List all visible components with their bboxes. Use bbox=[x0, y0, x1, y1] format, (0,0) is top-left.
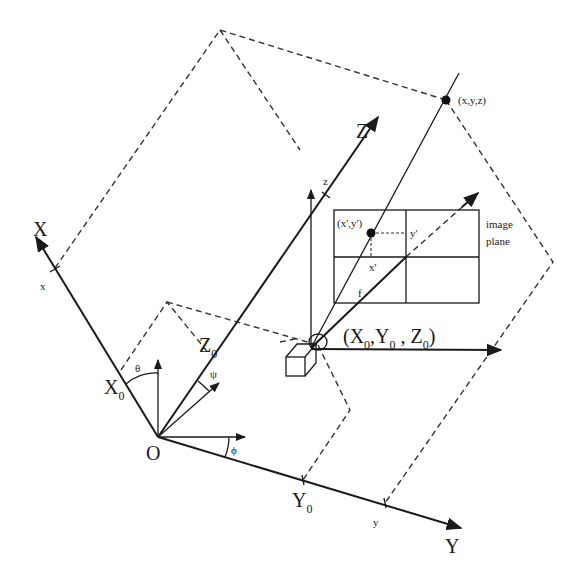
label-focal-length: f bbox=[358, 287, 362, 299]
label-image-y: y' bbox=[410, 227, 418, 239]
label-x0: X0 bbox=[104, 376, 124, 403]
camera-body-icon bbox=[286, 334, 327, 376]
optical-axis-arrow bbox=[462, 193, 478, 207]
label-psi: ψ bbox=[210, 368, 217, 380]
world-point-marker bbox=[442, 96, 451, 105]
label-tick-x: x bbox=[40, 280, 46, 292]
label-axis-x: X bbox=[33, 218, 48, 240]
label-phi: ϕ bbox=[231, 444, 237, 456]
phi-arc bbox=[225, 437, 229, 457]
label-tick-y: y bbox=[373, 516, 379, 528]
label-y0: Y0 bbox=[292, 489, 312, 516]
label-image-plane-2: plane bbox=[486, 235, 510, 247]
camera-geometry-diagram: X Y Z O x y z X0 Y0 Z0 θ ψ ϕ (x,y,z) (x'… bbox=[0, 0, 577, 575]
label-world-point: (x,y,z) bbox=[458, 94, 486, 107]
z-axis bbox=[158, 117, 378, 437]
image-point-marker bbox=[367, 229, 376, 238]
label-axis-z: Z bbox=[356, 120, 368, 142]
psi-arc bbox=[198, 381, 209, 391]
label-tick-z: z bbox=[323, 175, 328, 187]
label-image-x: x' bbox=[369, 261, 377, 273]
y-tick bbox=[384, 498, 386, 508]
x-axis bbox=[36, 237, 158, 437]
label-image-point: (x',y') bbox=[337, 217, 362, 230]
label-z0: Z0 bbox=[199, 334, 217, 361]
camera-horizontal-axis bbox=[311, 349, 501, 350]
label-camera-position: (X0,Y0 , Z0) bbox=[343, 325, 435, 352]
label-axis-y: Y bbox=[445, 535, 459, 557]
label-origin: O bbox=[146, 442, 160, 464]
label-image-plane-1: image bbox=[486, 218, 513, 230]
label-theta: θ bbox=[135, 362, 140, 374]
theta-arc bbox=[126, 373, 158, 384]
